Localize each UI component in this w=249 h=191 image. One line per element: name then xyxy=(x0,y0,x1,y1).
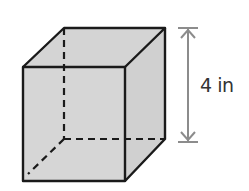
cube-diagram: 4 in xyxy=(0,0,249,191)
cube-front-face xyxy=(23,67,125,181)
dimension-label: 4 in xyxy=(200,74,233,96)
dimension-line xyxy=(178,28,198,142)
